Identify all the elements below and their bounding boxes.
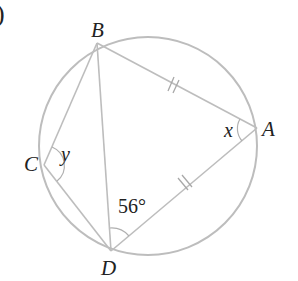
label-C: C	[24, 152, 39, 176]
angle-label-56: 56°	[118, 195, 146, 217]
label-D: D	[100, 256, 116, 280]
segment-BD	[97, 43, 111, 251]
segment-CD	[44, 165, 111, 251]
angle-arc-x	[237, 119, 242, 141]
label-B: B	[91, 18, 104, 42]
angle-label-x: x	[223, 119, 233, 141]
angle-label-y: y	[59, 143, 70, 166]
label-A: A	[260, 117, 275, 141]
geometry-diagram: ) B A C D x y 56°	[0, 0, 298, 281]
segment-BC	[44, 43, 97, 165]
segment-DA	[111, 128, 257, 251]
angle-arc-56	[110, 228, 129, 236]
part-marker: )	[0, 0, 5, 28]
equal-tick-BA	[168, 77, 179, 93]
